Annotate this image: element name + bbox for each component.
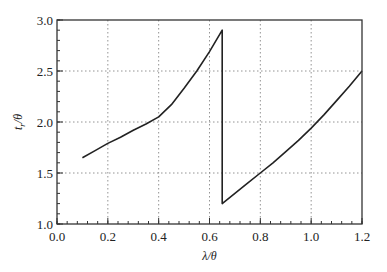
x-axis-label: λ/θ [201,249,217,263]
y-axis-label: tr/θ [11,114,27,130]
x-tick-label: 0.4 [151,229,168,244]
y-axis-label-tail: /θ [11,114,25,124]
line-chart: 0.00.20.40.60.81.01.2 1.01.52.02.53.0 λ/… [0,0,387,272]
x-tick-label: 0.8 [252,229,268,244]
y-tick-labels: 1.01.52.02.53.0 [37,13,53,232]
x-tick-label: 0.2 [100,229,116,244]
y-tick-label: 2.0 [37,115,53,130]
series-line [82,30,362,203]
y-tick-label: 2.5 [37,64,53,79]
y-tick-label: 1.0 [37,217,53,232]
y-tick-label: 1.5 [37,166,53,181]
x-tick-label: 1.0 [303,229,319,244]
data-series [82,30,362,203]
x-tick-labels: 0.00.20.40.60.81.01.2 [49,229,370,244]
y-tick-label: 3.0 [37,13,53,28]
x-tick-label: 1.2 [354,229,370,244]
x-tick-label: 0.6 [201,229,218,244]
